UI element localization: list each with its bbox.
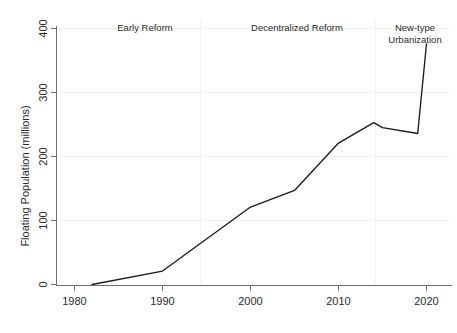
annotation-new-type-urbanization-line1: New-type xyxy=(395,22,435,33)
chart-background xyxy=(0,0,457,333)
annotation-decentralized-reform: Decentralized Reform xyxy=(251,22,343,33)
y-axis-title: Floating Population (millions) xyxy=(19,105,31,246)
x-tick-label-1990: 1990 xyxy=(150,295,174,307)
x-tick-label-2020: 2020 xyxy=(414,295,438,307)
y-tick-label-300: 300 xyxy=(37,83,49,101)
floating-population-line-chart: 400 300 200 100 0 Floating Population (m… xyxy=(0,0,457,333)
annotation-early-reform: Early Reform xyxy=(117,22,173,33)
chart-figure: 400 300 200 100 0 Floating Population (m… xyxy=(0,0,457,333)
y-tick-label-0: 0 xyxy=(37,281,49,287)
y-tick-label-100: 100 xyxy=(37,211,49,229)
x-tick-label-2000: 2000 xyxy=(238,295,262,307)
y-tick-label-400: 400 xyxy=(37,19,49,37)
x-tick-label-2010: 2010 xyxy=(326,295,350,307)
annotation-new-type-urbanization-line2: Urbanization xyxy=(388,34,441,45)
x-tick-label-1980: 1980 xyxy=(62,295,86,307)
y-tick-label-200: 200 xyxy=(37,147,49,165)
